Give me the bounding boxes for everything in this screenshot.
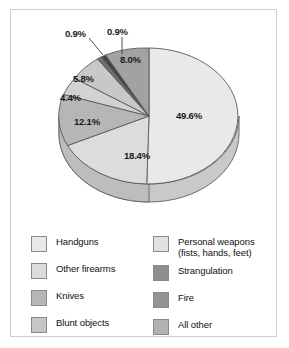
pct-label-blunt-objects: 4.4%	[60, 92, 81, 103]
pct-label-personal-weapons: 8.0%	[120, 54, 141, 65]
legend-column-right: Personal weapons(fists, hands, feet) Str…	[153, 235, 278, 345]
legend-swatch-blunt-objects	[31, 317, 47, 333]
chart-frame: 49.6% 18.4% 12.1% 4.4% 5.8% 8.0% 0.9% 0.…	[10, 9, 277, 337]
legend-label-all-other: All other	[178, 318, 212, 331]
legend-item-fire[interactable]: Fire	[153, 291, 278, 314]
legend-label-strangulation: Strangulation	[178, 264, 233, 277]
legend-item-handguns[interactable]: Handguns	[31, 235, 156, 258]
leader-line-strangulation	[89, 38, 103, 55]
legend-item-strangulation[interactable]: Strangulation	[153, 264, 278, 287]
legend-label-knives: Knives	[56, 289, 84, 302]
pct-label-fire: 0.9%	[107, 26, 128, 37]
pie-chart-area: 49.6% 18.4% 12.1% 4.4% 5.8% 8.0% 0.9% 0.…	[11, 10, 278, 224]
legend-label-fire: Fire	[178, 291, 194, 304]
legend-swatch-strangulation	[153, 265, 169, 281]
legend-label-other-firearms: Other firearms	[56, 262, 115, 275]
pct-label-strangulation: 0.9%	[65, 28, 86, 39]
legend-item-other-firearms[interactable]: Other firearms	[31, 262, 156, 285]
legend-label-blunt-objects: Blunt objects	[56, 316, 109, 329]
pct-label-other-firearms: 18.4%	[124, 150, 150, 161]
legend-swatch-handguns	[31, 236, 47, 252]
legend-item-knives[interactable]: Knives	[31, 289, 156, 312]
legend-item-blunt-objects[interactable]: Blunt objects	[31, 316, 156, 339]
legend-label-personal-weapons-line2: (fists, hands, feet)	[178, 248, 255, 259]
legend-label-personal-weapons-line1: Personal weapons	[178, 236, 255, 247]
legend-item-all-other[interactable]: All other	[153, 318, 278, 341]
legend-swatch-other-firearms	[31, 263, 47, 279]
pie-chart-svg	[11, 10, 278, 224]
legend-item-personal-weapons[interactable]: Personal weapons(fists, hands, feet)	[153, 235, 278, 260]
legend-swatch-knives	[31, 290, 47, 306]
legend-label-handguns: Handguns	[56, 235, 99, 248]
chart-legend: Handguns Other firearms Knives Blunt obj…	[11, 225, 278, 338]
legend-swatch-fire	[153, 292, 169, 308]
pct-label-all-other: 5.8%	[73, 73, 94, 84]
pct-label-handguns: 49.6%	[176, 110, 202, 121]
legend-swatch-personal-weapons	[153, 236, 169, 252]
legend-column-left: Handguns Other firearms Knives Blunt obj…	[31, 235, 156, 343]
legend-swatch-all-other	[153, 319, 169, 335]
pct-label-knives: 12.1%	[74, 116, 100, 127]
legend-label-personal-weapons: Personal weapons(fists, hands, feet)	[178, 235, 255, 258]
